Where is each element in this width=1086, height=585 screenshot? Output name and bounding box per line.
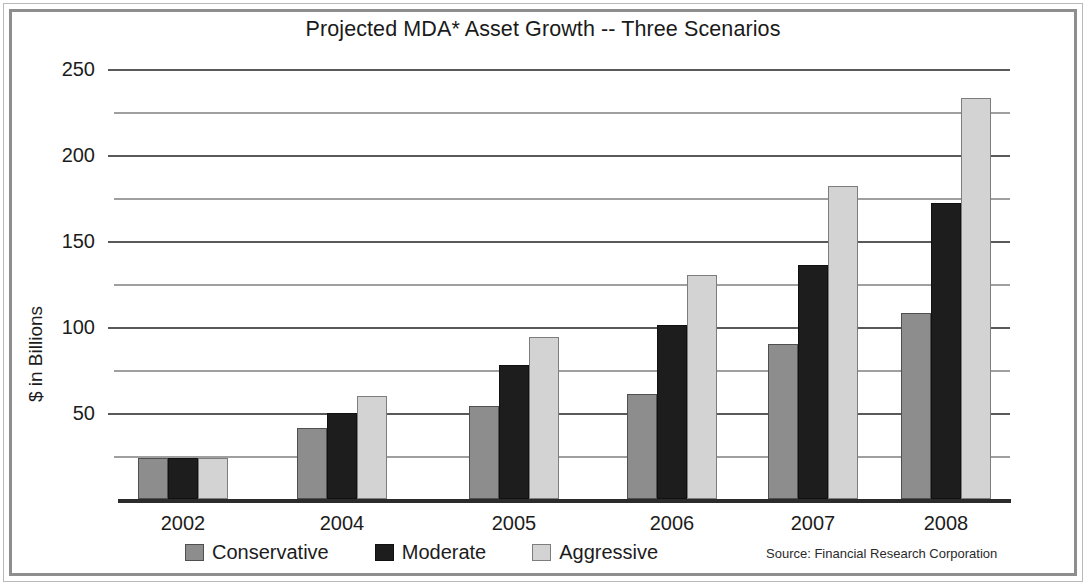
legend-item-conservative: Conservative xyxy=(185,541,329,564)
bar-conservative-2002 xyxy=(138,458,168,499)
x-tick-label-2007: 2007 xyxy=(753,512,873,535)
y-tick-mark xyxy=(108,241,128,243)
bar-group xyxy=(617,60,727,499)
y-tick-mark xyxy=(108,155,128,157)
bar-group xyxy=(891,60,1001,499)
bar-aggressive-2004 xyxy=(357,396,387,499)
bar-aggressive-2007 xyxy=(828,186,858,499)
legend-item-moderate: Moderate xyxy=(375,541,487,564)
y-tick-mark-minor xyxy=(114,370,128,372)
y-tick-mark-minor xyxy=(114,284,128,286)
y-tick-label: 150 xyxy=(62,229,95,252)
y-tick-label: 100 xyxy=(62,315,95,338)
y-tick-mark xyxy=(108,413,128,415)
legend-label: Conservative xyxy=(212,541,329,564)
bar-conservative-2007 xyxy=(768,344,798,499)
legend-label: Aggressive xyxy=(559,541,658,564)
y-tick-mark xyxy=(108,327,128,329)
bar-conservative-2005 xyxy=(469,406,499,499)
y-tick-mark-minor xyxy=(114,456,128,458)
bar-conservative-2006 xyxy=(627,394,657,499)
x-tick-labels: 200220042005200620072008 xyxy=(128,512,1010,542)
x-tick-label-2006: 2006 xyxy=(612,512,732,535)
x-tick-label-2008: 2008 xyxy=(886,512,1006,535)
bar-aggressive-2002 xyxy=(198,458,228,499)
legend-swatch-icon xyxy=(532,544,551,561)
bar-moderate-2005 xyxy=(499,365,529,499)
y-tick-mark xyxy=(108,69,128,71)
legend-swatch-icon xyxy=(375,544,394,561)
bar-group xyxy=(758,60,868,499)
y-tick-label: 250 xyxy=(62,57,95,80)
chart-page: Projected MDA* Asset Growth -- Three Sce… xyxy=(0,0,1086,585)
bar-aggressive-2006 xyxy=(687,275,717,499)
bar-conservative-2004 xyxy=(297,428,327,499)
bar-conservative-2008 xyxy=(901,313,931,499)
bar-aggressive-2005 xyxy=(529,337,559,499)
bar-group xyxy=(459,60,569,499)
bar-moderate-2004 xyxy=(327,413,357,499)
bar-moderate-2006 xyxy=(657,325,687,499)
x-axis-line xyxy=(118,499,1011,503)
y-tick-label: 50 xyxy=(73,401,95,424)
y-tick-mark-minor xyxy=(114,112,128,114)
bar-aggressive-2008 xyxy=(961,98,991,499)
x-tick-label-2002: 2002 xyxy=(123,512,243,535)
legend-item-aggressive: Aggressive xyxy=(532,541,658,564)
bar-group xyxy=(128,60,238,499)
y-axis: $ in Billions 50100150200250 xyxy=(0,60,95,507)
legend-swatch-icon xyxy=(185,544,204,561)
y-tick-mark-minor xyxy=(114,198,128,200)
x-tick-label-2004: 2004 xyxy=(282,512,402,535)
legend-label: Moderate xyxy=(402,541,487,564)
bar-moderate-2007 xyxy=(798,265,828,499)
y-tick-label: 200 xyxy=(62,143,95,166)
chart-title: Projected MDA* Asset Growth -- Three Sce… xyxy=(0,17,1086,42)
bar-groups xyxy=(128,60,1010,499)
bar-moderate-2008 xyxy=(931,203,961,499)
bar-moderate-2002 xyxy=(168,458,198,499)
chart-legend: ConservativeModerateAggressive xyxy=(185,541,658,564)
source-note: Source: Financial Research Corporation xyxy=(766,546,997,561)
bar-group xyxy=(287,60,397,499)
y-axis-title: $ in Billions xyxy=(25,274,47,434)
x-tick-label-2005: 2005 xyxy=(454,512,574,535)
